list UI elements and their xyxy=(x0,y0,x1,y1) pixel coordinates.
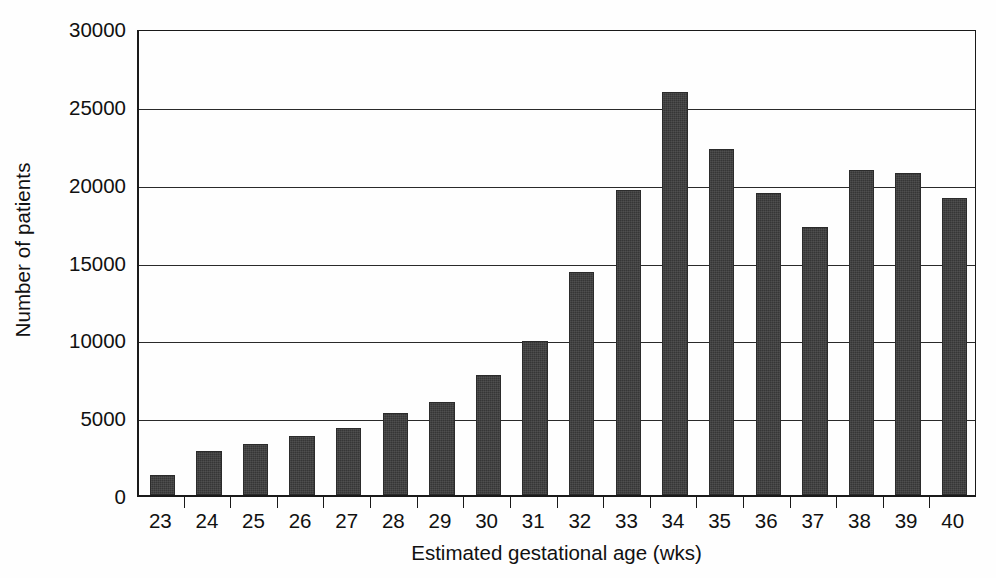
bar xyxy=(569,272,594,495)
x-axis-ticks xyxy=(137,497,976,509)
x-tick-label: 30 xyxy=(475,509,498,533)
x-tick-label: 31 xyxy=(522,509,545,533)
x-tick-mark xyxy=(184,497,185,508)
x-tick-label: 26 xyxy=(289,509,312,533)
x-tick-label: 25 xyxy=(242,509,265,533)
bar-chart-figure: Number of patients 050001000015000200002… xyxy=(0,0,996,578)
bar xyxy=(802,227,827,495)
x-tick-mark xyxy=(603,497,604,508)
bar xyxy=(429,402,454,495)
x-tick-label: 35 xyxy=(708,509,731,533)
x-tick-mark xyxy=(650,497,651,508)
bar xyxy=(522,341,547,495)
x-tick-mark xyxy=(417,497,418,508)
bar xyxy=(756,193,781,495)
bar xyxy=(243,444,268,495)
bar xyxy=(849,170,874,495)
x-tick-mark xyxy=(463,497,464,508)
y-axis-title-label: Number of patients xyxy=(10,163,34,338)
x-tick-label: 39 xyxy=(895,509,918,533)
x-tick-mark xyxy=(323,497,324,508)
y-tick-label: 20000 xyxy=(69,174,126,198)
x-axis-title: Estimated gestational age (wks) xyxy=(137,541,976,565)
x-tick-mark xyxy=(929,497,930,508)
bar xyxy=(150,475,175,495)
bar xyxy=(196,451,221,495)
bar xyxy=(383,413,408,496)
x-tick-label: 27 xyxy=(335,509,358,533)
x-tick-mark xyxy=(883,497,884,508)
x-tick-mark xyxy=(370,497,371,508)
x-tick-mark xyxy=(230,497,231,508)
y-tick-label: 5000 xyxy=(80,407,126,431)
bar xyxy=(895,173,920,495)
y-tick-label: 25000 xyxy=(69,96,126,120)
x-tick-label: 29 xyxy=(429,509,452,533)
x-axis-tick-labels: 232425262728293031323334353637383940 xyxy=(137,509,976,539)
y-tick-label: 15000 xyxy=(69,252,126,276)
x-tick-mark xyxy=(557,497,558,508)
bar xyxy=(289,436,314,495)
x-tick-label: 28 xyxy=(382,509,405,533)
x-tick-mark xyxy=(510,497,511,508)
bar xyxy=(942,198,967,495)
x-tick-label: 33 xyxy=(615,509,638,533)
x-tick-mark xyxy=(277,497,278,508)
x-tick-label: 37 xyxy=(801,509,824,533)
y-axis-title: Number of patients xyxy=(0,0,44,500)
plot-area xyxy=(137,30,976,497)
x-tick-label: 36 xyxy=(755,509,778,533)
x-tick-label: 23 xyxy=(149,509,172,533)
x-tick-mark xyxy=(790,497,791,508)
y-axis-tick-labels: 050001000015000200002500030000 xyxy=(44,0,130,578)
x-tick-label: 24 xyxy=(196,509,219,533)
y-tick-label: 0 xyxy=(115,485,126,509)
bar xyxy=(476,375,501,495)
y-tick-label: 30000 xyxy=(69,18,126,42)
bar xyxy=(336,428,361,495)
x-tick-mark xyxy=(743,497,744,508)
x-tick-mark xyxy=(836,497,837,508)
y-tick-label: 10000 xyxy=(69,329,126,353)
x-tick-label: 38 xyxy=(848,509,871,533)
bars-layer xyxy=(139,31,975,495)
bar xyxy=(662,92,687,495)
x-tick-mark xyxy=(696,497,697,508)
bar xyxy=(709,149,734,495)
x-tick-label: 32 xyxy=(568,509,591,533)
bar xyxy=(616,190,641,495)
x-tick-label: 40 xyxy=(941,509,964,533)
x-tick-label: 34 xyxy=(662,509,685,533)
